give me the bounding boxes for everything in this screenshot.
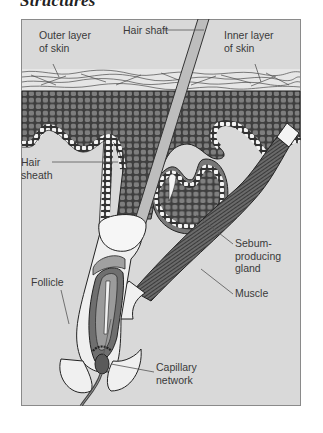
label-inner-layer-of-skin: Inner layer of skin (224, 29, 274, 54)
label-capillary-network: Capillary network (156, 361, 197, 386)
label-hair-sheath: Hair sheath (21, 156, 53, 181)
dermal-papilla (95, 354, 109, 374)
label-sebum-producing-gland: Sebum- producing gland (235, 237, 281, 275)
label-muscle: Muscle (235, 287, 268, 300)
diagram-illustration (21, 19, 301, 406)
label-outer-layer-of-skin: Outer layer of skin (39, 29, 91, 54)
label-hair-shaft: Hair shaft (123, 24, 168, 37)
label-follicle: Follicle (31, 276, 64, 289)
page-heading: Structures (20, 0, 96, 11)
hair-follicle-diagram: Outer layer of skin Hair shaft Inner lay… (21, 19, 301, 406)
